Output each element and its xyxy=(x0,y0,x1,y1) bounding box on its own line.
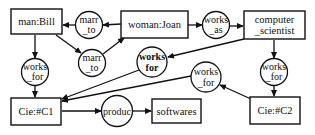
concept-computer-scientist: computer _scientist xyxy=(244,11,305,39)
relation-marr-to-top: marr _to xyxy=(76,12,103,39)
relation-works-for-right: works _for xyxy=(261,59,288,86)
edge-marr-bottom-joan xyxy=(103,38,124,54)
relation-works-for-cs-line2: for xyxy=(146,62,159,73)
relation-works-for-bill-line2: _for xyxy=(26,71,44,82)
relation-works-as-line2: _as xyxy=(208,24,222,35)
concept-bill: man:Bill xyxy=(11,9,62,34)
concept-c2: Cie:#C2 xyxy=(250,97,300,124)
concept-softwares: softwares xyxy=(152,99,201,123)
relation-produc: produc xyxy=(102,96,133,127)
concept-c1-label: Cie:#C1 xyxy=(18,106,53,117)
concept-cs-line2: _scientist xyxy=(254,25,295,36)
relation-produc-label: produc xyxy=(103,106,131,117)
relation-marr-to-bottom: marr _to xyxy=(79,50,106,77)
relation-works-for-right-line2: _for xyxy=(265,71,283,82)
edge-joan-marr-top xyxy=(103,24,121,25)
relation-works-as: works _as xyxy=(203,12,230,39)
concept-bill-label: man:Bill xyxy=(18,16,55,27)
concept-joan-label: woman:Joan xyxy=(128,19,182,30)
relation-works-for-c2: works _for xyxy=(191,62,221,92)
conceptual-graph: man:Bill woman:Joan computer _scientist … xyxy=(0,0,315,135)
edge-c2-works-for xyxy=(220,85,251,99)
edge-bill-marr-bottom xyxy=(56,35,81,53)
concept-cs-line1: computer xyxy=(255,14,295,25)
concept-c2-label: Cie:#C2 xyxy=(257,105,292,116)
relation-marr-top-line2: _to xyxy=(82,24,96,35)
relation-works-for-c2-line1: works xyxy=(194,66,219,77)
relation-marr-bottom-line2: _to xyxy=(85,62,99,73)
edge-works-for-mid-c1 xyxy=(62,76,191,101)
concept-c1: Cie:#C1 xyxy=(11,98,61,125)
relation-works-for-cs-line1: works xyxy=(139,51,165,62)
edge-cs-works-for-bold xyxy=(168,39,244,57)
relation-works-for-c2-line2: _for xyxy=(197,77,215,88)
concept-softwares-label: softwares xyxy=(156,106,196,117)
concept-joan: woman:Joan xyxy=(121,11,188,38)
relation-works-for-bill: works _for xyxy=(22,59,49,86)
relation-works-for-cs: works for xyxy=(137,47,167,77)
edge-works-for-bold-c1 xyxy=(62,70,139,99)
